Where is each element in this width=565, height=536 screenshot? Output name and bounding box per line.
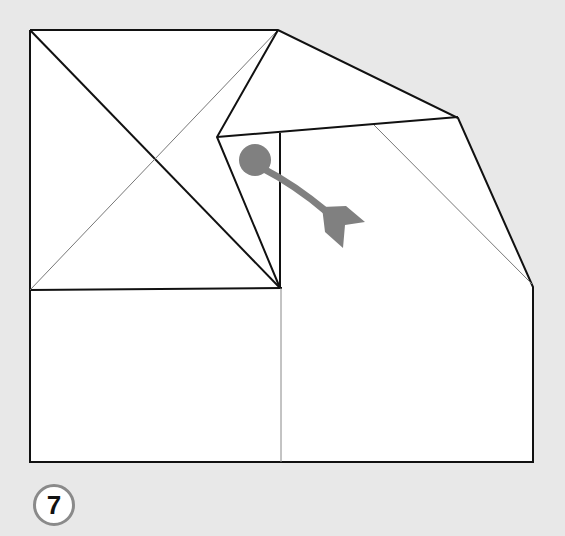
- origami-diagram: [0, 0, 565, 536]
- step-number-badge: 7: [33, 484, 75, 526]
